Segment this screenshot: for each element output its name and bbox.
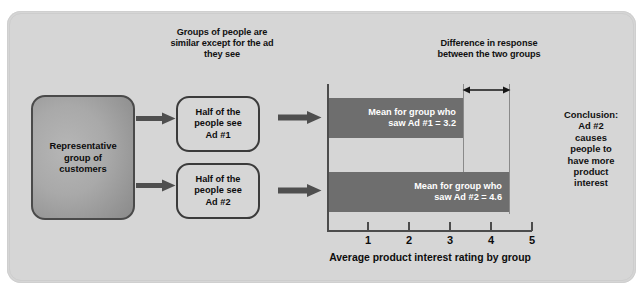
x-tick-5 [531, 222, 533, 231]
x-tick-1 [367, 222, 369, 231]
x-tick-label-4: 4 [479, 234, 503, 246]
bar-mean-ad2-label: Mean for group who saw Ad #2 = 4.6 [414, 181, 509, 204]
representative-group-box: Representative group of customers [31, 95, 135, 220]
double-headed-arrow-icon [462, 83, 511, 97]
bar-mean-ad1-label: Mean for group who saw Ad #1 = 3.2 [368, 107, 463, 130]
x-axis-title: Average product interest rating by group [305, 252, 555, 263]
x-tick-label-3: 3 [438, 234, 462, 246]
x-tick-label-5: 5 [520, 234, 544, 246]
block-arrow-right-icon [136, 179, 176, 192]
cropped-top-text [0, 0, 643, 8]
guide-line-mean-ad1 [463, 84, 464, 176]
block-arrow-right-icon [278, 111, 322, 124]
x-tick-label-2: 2 [397, 234, 421, 246]
group-box-ad1: Half of the people see Ad #1 [176, 96, 260, 152]
bar-chart: Mean for group who saw Ad #1 = 3.2 Mean … [327, 84, 545, 244]
conclusion-text: Conclusion: Ad #2 causes people to have … [549, 109, 633, 189]
bar-mean-ad1: Mean for group who saw Ad #1 = 3.2 [329, 98, 463, 138]
group-box-ad1-label: Half of the people see Ad #1 [194, 107, 242, 141]
x-tick-label-1: 1 [356, 234, 380, 246]
group-box-ad2-label: Half of the people see Ad #2 [194, 174, 242, 208]
chart-x-axis [327, 230, 532, 232]
block-arrow-right-icon [278, 184, 322, 197]
group-box-ad2: Half of the people see Ad #2 [176, 163, 260, 219]
header-groups-caption: Groups of people are similar except for … [166, 27, 278, 61]
x-tick-2 [408, 222, 410, 231]
diagram-canvas: Groups of people are similar except for … [0, 0, 643, 288]
block-arrow-right-icon [136, 112, 176, 125]
bar-mean-ad2: Mean for group who saw Ad #2 = 4.6 [329, 172, 509, 212]
header-difference-caption: Difference in response between the two g… [426, 38, 552, 60]
guide-line-mean-ad2 [509, 84, 510, 214]
x-tick-3 [449, 222, 451, 231]
x-tick-4 [490, 222, 492, 231]
representative-group-label: Representative group of customers [49, 140, 116, 175]
